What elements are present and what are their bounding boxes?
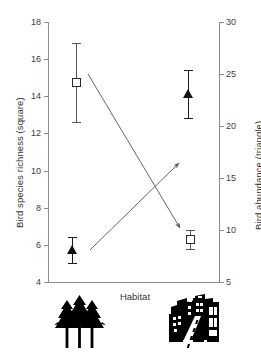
data-point-urban-richness: [186, 235, 195, 244]
left-tick-label-18: 18: [19, 18, 41, 27]
data-point-urban-abundance: [183, 89, 193, 98]
left-tick-mark: [44, 245, 48, 246]
data-point-forest-abundance: [67, 245, 77, 254]
conifer-trees-icon: [52, 292, 108, 350]
error-cap-bottom-urban-abundance: [184, 118, 193, 119]
city-buildings-icon: [165, 292, 223, 350]
left-axis-title: Bird species richness (square): [14, 97, 25, 228]
right-tick-label-15: 15: [226, 174, 248, 183]
x-axis-title: Habitat: [109, 291, 161, 302]
right-tick-mark: [220, 126, 224, 127]
left-tick-mark: [44, 133, 48, 134]
right-tick-label-5: 5: [226, 278, 248, 287]
right-tick-mark: [220, 282, 224, 283]
x-axis-line: [48, 282, 220, 283]
left-tick-label-16: 16: [19, 55, 41, 64]
left-tick-mark: [44, 22, 48, 23]
left-tick-mark: [44, 59, 48, 60]
richness-decline-arrow: [88, 74, 180, 228]
right-tick-label-30: 30: [226, 18, 248, 27]
right-axis-line: [219, 22, 220, 283]
error-cap-bottom-urban-richness: [186, 249, 195, 250]
right-tick-label-10: 10: [226, 226, 248, 235]
right-tick-mark: [220, 178, 224, 179]
right-axis-title: Bird abundance (triangle): [253, 121, 261, 230]
left-axis-line: [48, 22, 49, 283]
right-tick-mark: [220, 22, 224, 23]
error-cap-top-forest-richness: [72, 43, 81, 44]
left-tick-mark: [44, 208, 48, 209]
left-tick-mark: [44, 96, 48, 97]
bird-habitat-chart: 18 16 14 12 10 8 6 4 30 25 20 15 10 5 Bi…: [0, 0, 261, 353]
error-cap-top-forest-abundance: [68, 237, 77, 238]
error-cap-bottom-forest-abundance: [68, 263, 77, 264]
error-cap-top-urban-richness: [186, 230, 195, 231]
abundance-increase-arrow: [90, 163, 179, 250]
data-point-forest-richness: [72, 78, 81, 87]
right-tick-mark: [220, 230, 224, 231]
right-tick-mark: [220, 74, 224, 75]
error-cap-top-urban-abundance: [184, 70, 193, 71]
right-tick-label-20: 20: [226, 122, 248, 131]
left-tick-mark: [44, 171, 48, 172]
left-tick-label-6: 6: [19, 241, 41, 250]
right-tick-label-25: 25: [226, 70, 248, 79]
left-tick-mark: [44, 282, 48, 283]
error-cap-bottom-forest-richness: [72, 122, 81, 123]
left-tick-label-4: 4: [19, 278, 41, 287]
